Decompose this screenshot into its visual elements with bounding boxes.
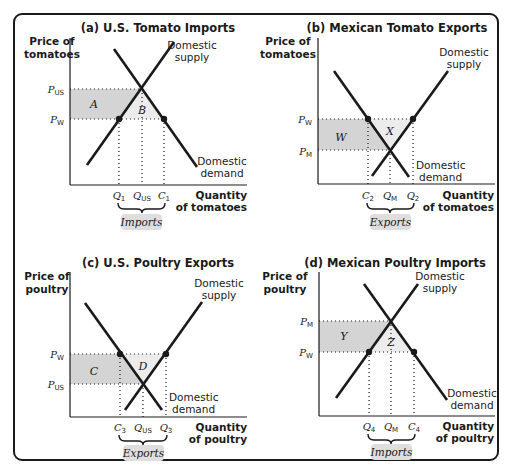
y-axis-label-line2: tomatoes [260, 48, 316, 60]
supply-label-2: supply [202, 289, 237, 301]
bracket-tag: Exports [122, 447, 165, 459]
panel-title: (c) U.S. Poultry Exports [82, 256, 234, 270]
exports-bracket [119, 435, 167, 445]
point-demand-at-world-price [117, 351, 123, 357]
quantity-tick-3: C1 [158, 190, 170, 203]
price-tick-top: PM [299, 316, 313, 329]
x-axis-label-line2: of poultry [189, 433, 247, 445]
y-axis-label-line1: Price of [262, 270, 308, 282]
supply-label-2: supply [447, 58, 482, 70]
quantity-tick-1: Q4 [363, 421, 376, 434]
demand-label-1: Domestic [416, 159, 466, 171]
y-axis-label-line1: Price of [24, 270, 70, 282]
quantity-tick-2: QUS [133, 190, 151, 203]
four-panel-trade-chart: (a) U.S. Tomato Imports Price of tomatoe… [0, 0, 510, 475]
x-axis-label-line1: Quantity [443, 189, 495, 201]
y-axis-label-line1: Price of [265, 35, 311, 47]
point-supply-at-world-price [163, 351, 169, 357]
y-axis-label-line2: poultry [264, 283, 307, 295]
area-label-light: X [385, 125, 395, 138]
quantity-tick-2: QM [383, 190, 397, 203]
quantity-tick-2: QM [384, 421, 398, 434]
x-axis-label-line1: Quantity [196, 421, 248, 433]
point-supply-at-world-price [116, 116, 122, 122]
price-tick-bottom: PW [49, 114, 64, 127]
price-tick-bottom: PUS [47, 379, 65, 392]
panel-title: (d) Mexican Poultry Imports [304, 256, 486, 270]
quantity-tick-1: C3 [114, 422, 126, 435]
demand-label-2: demand [200, 167, 243, 179]
panel-title: (b) Mexican Tomato Exports [307, 21, 488, 35]
price-tick-top: PUS [47, 84, 65, 97]
demand-label-1: Domestic [169, 391, 219, 403]
area-label-dark: A [89, 98, 98, 111]
quantity-tick-1: C2 [362, 190, 374, 203]
y-axis-label-line2: tomatoes [24, 48, 80, 60]
point-demand-at-world-price [365, 116, 371, 122]
supply-label-1: Domestic [167, 39, 217, 51]
area-label-dark: C [90, 365, 99, 378]
panel-b-mexican-tomato-exports: (b) Mexican Tomato Exports Price of toma… [260, 21, 495, 230]
bracket-tag: Exports [369, 216, 412, 228]
bracket-tag: Imports [120, 216, 163, 228]
quantity-tick-3: C4 [408, 421, 421, 434]
price-tick-top: PW [49, 349, 64, 362]
x-axis-label-line1: Quantity [196, 189, 248, 201]
bracket-tag: Imports [370, 446, 413, 458]
area-label-light: D [138, 360, 148, 373]
panel-a-us-tomato-imports: (a) U.S. Tomato Imports Price of tomatoe… [24, 21, 247, 230]
quantity-tick-3: Q3 [160, 422, 173, 435]
panel-c-us-poultry-exports: (c) U.S. Poultry Exports Price of poultr… [24, 256, 247, 461]
demand-label-2: demand [172, 403, 215, 415]
exports-bracket [367, 203, 414, 213]
area-label-dark: W [335, 131, 348, 144]
point-demand-at-world-price [161, 116, 167, 122]
supply-label-2: supply [423, 282, 458, 294]
imports-bracket [118, 203, 165, 213]
y-axis-label-line2: poultry [26, 283, 69, 295]
point-demand-at-world-price [411, 349, 417, 355]
panel-title: (a) U.S. Tomato Imports [81, 21, 236, 35]
supply-label-1: Domestic [415, 270, 465, 282]
demand-label-2: demand [419, 171, 462, 183]
quantity-tick-3: Q2 [407, 190, 420, 203]
price-tick-bottom: PM [298, 146, 312, 159]
supply-label-1: Domestic [194, 277, 244, 289]
demand-label-1: Domestic [447, 387, 497, 399]
price-tick-top: PW [297, 114, 312, 127]
x-axis-label-line1: Quantity [443, 420, 495, 432]
quantity-tick-1: Q1 [113, 190, 126, 203]
supply-label-1: Domestic [439, 46, 489, 58]
demand-label-2: demand [450, 399, 493, 411]
point-supply-at-world-price [410, 116, 416, 122]
demand-label-1: Domestic [197, 155, 247, 167]
x-axis-label-line2: of tomatoes [423, 201, 494, 213]
area-label-light: Z [386, 336, 395, 349]
quantity-tick-2: QUS [134, 422, 152, 435]
y-axis-label-line1: Price of [29, 35, 75, 47]
point-supply-at-world-price [366, 349, 372, 355]
panel-d-mexican-poultry-imports: (d) Mexican Poultry Imports Price of pou… [262, 256, 497, 460]
x-axis-label-line2: of poultry [436, 432, 494, 444]
x-axis-label-line2: of tomatoes [176, 201, 247, 213]
area-label-light: B [137, 104, 146, 117]
price-tick-bottom: PW [298, 347, 313, 360]
supply-label-2: supply [175, 51, 210, 63]
imports-bracket [368, 434, 415, 444]
